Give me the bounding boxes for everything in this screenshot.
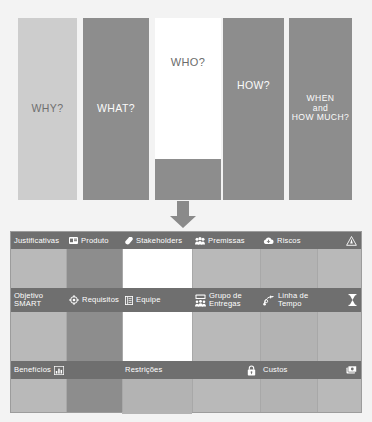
- canvas-row-3: Benefícios Restrições Custos: [11, 361, 361, 379]
- canvas-cell-linha-tempo[interactable]: Linha de Tempo: [260, 288, 361, 312]
- question-bar-when: WHEN and HOW MUCH?: [289, 18, 352, 200]
- grid-divider: [66, 232, 67, 412]
- canvas-cell-restricoes-label: Restrições: [125, 366, 162, 374]
- question-bar-how: HOW?: [223, 18, 284, 200]
- lock-icon: [247, 365, 260, 376]
- canvas-cell-produto[interactable]: Produto: [66, 232, 122, 249]
- who-notch-fill: [155, 159, 221, 200]
- canvas-cell-stakeholders-label: Stakeholders: [136, 237, 182, 245]
- bar-chart-icon: [54, 366, 68, 375]
- target-icon: [69, 295, 79, 305]
- question-bar-how-label: HOW?: [223, 80, 284, 92]
- canvas-cell-equipe-label: Equipe: [136, 296, 161, 304]
- canvas-cell-produto-label: Produto: [81, 237, 109, 245]
- question-bar-who: WHO?: [155, 18, 221, 200]
- canvas-cell-equipe[interactable]: Equipe: [122, 288, 192, 312]
- canvas-row-1: Justificativas Produto Stakeholders Prem…: [11, 232, 361, 249]
- canvas-cell-custos[interactable]: Custos: [260, 361, 361, 379]
- hourglass-icon: [348, 294, 361, 306]
- question-bar-what: WHAT?: [83, 18, 149, 200]
- grid-divider: [122, 232, 123, 412]
- canvas-cell-riscos-label: Riscos: [277, 237, 301, 245]
- canvas-cell-linha-tempo-label: Linha de Tempo: [278, 292, 308, 308]
- warning-triangle-icon: [346, 236, 361, 246]
- group-icon: [195, 294, 206, 307]
- grid-divider: [260, 232, 261, 412]
- canvas-cell-requisitos-label: Requisitos: [82, 296, 119, 304]
- question-bar-why-label: WHY?: [32, 103, 64, 115]
- canvas-cell-premissas-label: Premissas: [208, 237, 245, 245]
- grid-divider: [192, 232, 193, 412]
- cloud-down-icon: [263, 237, 274, 245]
- column-fill-produto: [66, 232, 122, 412]
- canvas-cell-beneficios-label: Benefícios: [14, 366, 51, 374]
- people-icon: [195, 237, 205, 245]
- list-icon: [125, 296, 133, 305]
- question-bars-panel: WHY? WHAT? WHO? HOW? WHEN and HOW MUCH?: [18, 18, 352, 200]
- canvas-row-2: Objetivo SMART Requisitos Equipe Grupo d…: [11, 288, 361, 312]
- canvas-cell-stakeholders[interactable]: Stakeholders: [122, 232, 192, 249]
- canvas-cell-justificativas-label: Justificativas: [14, 237, 59, 245]
- canvas-cell-requisitos[interactable]: Requisitos: [66, 288, 122, 312]
- canvas-cell-riscos[interactable]: Riscos: [260, 232, 361, 249]
- canvas-cell-custos-label: Custos: [263, 366, 288, 374]
- diagram-canvas: WHY? WHAT? WHO? HOW? WHEN and HOW MUCH?: [0, 0, 372, 422]
- question-bar-when-label: WHEN and HOW MUCH?: [289, 94, 352, 123]
- canvas-cell-restricoes[interactable]: Restrições: [122, 361, 260, 379]
- project-canvas-grid: Justificativas Produto Stakeholders Prem…: [10, 231, 362, 413]
- canvas-cell-grupo-entregas[interactable]: Grupo de Entregas: [192, 288, 260, 312]
- card-icon: [69, 237, 78, 244]
- question-bar-what-label: WHAT?: [97, 103, 135, 115]
- arrow-down-icon: [168, 201, 198, 229]
- canvas-cell-premissas[interactable]: Premissas: [192, 232, 260, 249]
- grid-divider: [317, 232, 318, 412]
- money-icon: [346, 365, 361, 375]
- canvas-cell-objetivo-smart[interactable]: Objetivo SMART: [11, 288, 66, 312]
- canvas-cell-beneficios[interactable]: Benefícios: [11, 361, 66, 379]
- canvas-cell-grupo-entregas-label: Grupo de Entregas: [209, 292, 242, 308]
- canvas-cell-justificativas[interactable]: Justificativas: [11, 232, 66, 249]
- question-bar-who-label: WHO?: [155, 56, 221, 68]
- question-bar-why: WHY?: [18, 18, 77, 200]
- timeline-icon: [263, 295, 275, 306]
- canvas-cell-objetivo-smart-label: Objetivo SMART: [14, 292, 43, 308]
- column-fill-riscos: [260, 232, 317, 412]
- tag-icon: [125, 237, 133, 245]
